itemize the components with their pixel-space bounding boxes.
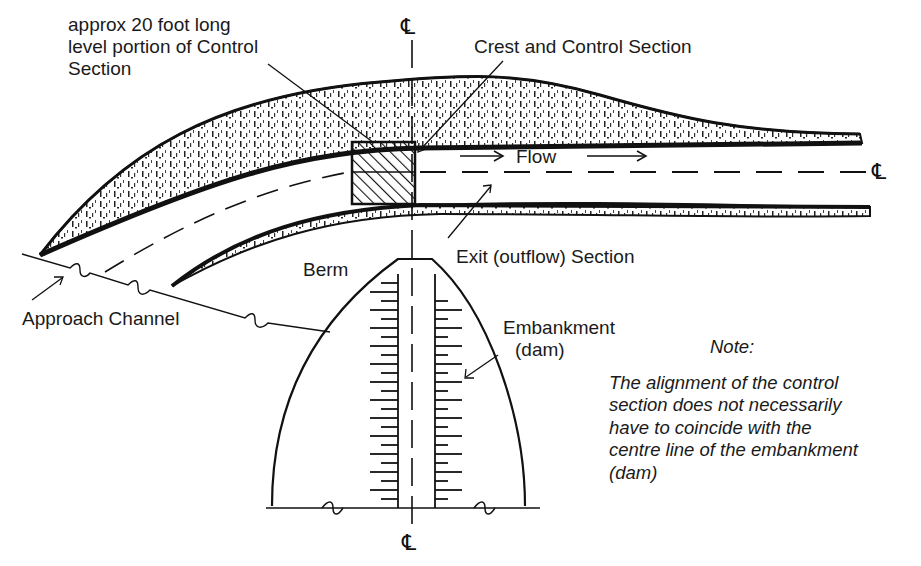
note-line: centre line of the embankment	[609, 439, 858, 462]
label-level-portion: approx 20 foot long level portion of Con…	[68, 14, 258, 80]
control-section	[352, 142, 415, 204]
label-berm: Berm	[303, 259, 348, 281]
centreline-symbol-top: ℄	[401, 14, 415, 40]
upper-bank	[40, 76, 862, 255]
label-crest-control: Crest and Control Section	[474, 36, 692, 58]
note-line: (dam)	[609, 462, 858, 485]
label-exit-section: Exit (outflow) Section	[456, 246, 634, 268]
centreline-symbol-bottom: ℄	[402, 530, 416, 556]
note-line: The alignment of the control	[609, 372, 858, 395]
note-line: section does not necessarily	[609, 394, 858, 417]
lower-bank	[172, 203, 870, 286]
note-block: Note: The alignment of the control secti…	[609, 336, 858, 484]
label-approach-channel: Approach Channel	[22, 308, 179, 330]
centreline-symbol-right: ℄	[872, 159, 886, 185]
note-line: have to coincide with the	[609, 417, 858, 440]
note-title: Note:	[609, 336, 858, 359]
label-embankment: Embankment (dam)	[503, 317, 615, 361]
label-flow: Flow	[516, 146, 556, 168]
